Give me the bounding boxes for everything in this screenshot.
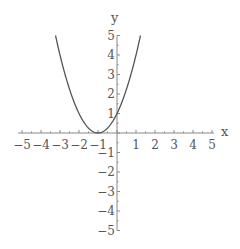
x-tick-label: 4 bbox=[189, 138, 197, 152]
y-tick-label: −5 bbox=[97, 224, 115, 238]
x-tick-label: −3 bbox=[51, 138, 69, 152]
y-tick-label: −1 bbox=[97, 146, 115, 160]
y-tick-label: 4 bbox=[107, 48, 115, 62]
y-tick-label: −3 bbox=[97, 185, 115, 199]
x-tick-label: 5 bbox=[208, 138, 216, 152]
x-tick-label: −2 bbox=[70, 138, 88, 152]
x-tick-label: 2 bbox=[151, 138, 159, 152]
y-axis-label: y bbox=[110, 10, 119, 25]
x-axis-label: x bbox=[221, 124, 229, 139]
y-tick-label: −2 bbox=[97, 165, 115, 179]
x-tick-label: 1 bbox=[132, 138, 140, 152]
x-tick-label: −5 bbox=[13, 138, 31, 152]
parabola-curve bbox=[56, 36, 141, 133]
x-tick-label: 3 bbox=[170, 138, 178, 152]
parabola-plot: −5−4−3−2−112345 −5−4−3−2−112345 x y bbox=[0, 0, 240, 249]
y-tick-label: −4 bbox=[97, 204, 115, 218]
y-tick-label: 2 bbox=[107, 87, 115, 101]
x-tick-label: −4 bbox=[32, 138, 50, 152]
y-tick-label: 5 bbox=[107, 29, 115, 43]
y-tick-label: 3 bbox=[107, 68, 115, 82]
